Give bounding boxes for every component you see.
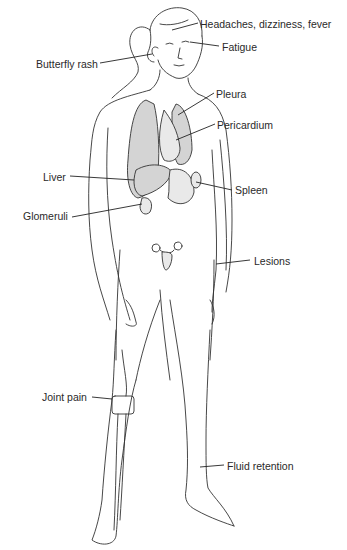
label-lesions: Lesions [254,255,290,267]
label-pleura: Pleura [216,88,246,100]
head [112,8,203,98]
label-fluid-retention: Fluid retention [227,460,294,472]
label-pericardium: Pericardium [217,119,273,131]
label-joint-pain: Joint pain [42,391,87,403]
label-butterfly-rash: Butterfly rash [36,58,98,70]
uterus [152,242,182,270]
label-fatigue: Fatigue [222,41,257,53]
kidney [140,198,152,214]
label-liver: Liver [43,171,66,183]
label-spleen: Spleen [235,184,268,196]
label-glomeruli: Glomeruli [23,210,68,222]
lupus-symptoms-diagram: Headaches, dizziness, fever Fatigue Butt… [0,0,347,550]
liver [134,165,172,196]
body-illustration [0,0,347,550]
label-headaches: Headaches, dizziness, fever [200,18,331,30]
spleen [191,172,201,188]
legs [92,300,234,544]
stomach [168,169,194,204]
